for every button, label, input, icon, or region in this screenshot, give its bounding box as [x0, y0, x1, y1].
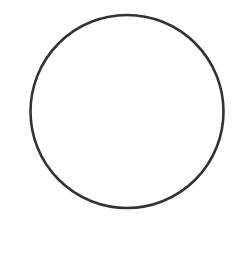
diagram-canvas [0, 0, 238, 266]
circle-shape [31, 15, 224, 208]
